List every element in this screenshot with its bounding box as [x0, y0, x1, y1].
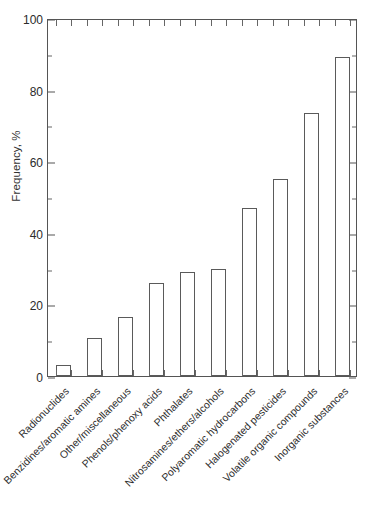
bar: [149, 283, 165, 376]
x-axis-tick: [149, 370, 150, 376]
figure-bar-chart: Frequency, % 020406080100 RadionuclidesB…: [0, 0, 373, 525]
y-axis-tick-minor: [48, 342, 52, 343]
y-axis-tick-label: 0: [36, 372, 43, 384]
y-axis-tick-label: 80: [30, 86, 43, 98]
y-axis-title: Frequency, %: [10, 106, 22, 226]
bar: [273, 179, 289, 376]
x-axis-tick-top: [71, 20, 72, 26]
bar: [242, 208, 258, 376]
y-axis-tick-major: [48, 91, 55, 92]
x-axis-tick: [350, 370, 351, 376]
x-axis-tick: [71, 370, 72, 376]
x-axis-tick: [273, 370, 274, 376]
x-axis-tick-top: [149, 20, 150, 26]
x-axis-tick: [335, 370, 336, 376]
bar: [87, 338, 103, 376]
x-axis-tick-top: [273, 20, 274, 26]
x-axis-tick-top: [102, 20, 103, 26]
y-axis-tick-minor-right: [352, 55, 356, 56]
y-axis-tick-minor-right: [352, 199, 356, 200]
y-axis-tick-major: [48, 163, 55, 164]
y-axis-tick-label: 60: [30, 157, 43, 169]
x-axis-tick: [304, 370, 305, 376]
x-axis-tick: [195, 370, 196, 376]
x-axis-tick: [180, 370, 181, 376]
y-axis-tick-major: [48, 234, 55, 235]
figure-caption: [10, 512, 365, 524]
bar: [335, 57, 351, 376]
y-axis-tick-minor-right: [352, 342, 356, 343]
y-axis-tick-minor-right: [352, 127, 356, 128]
x-axis-tick-top: [56, 20, 57, 26]
plot-area: 020406080100: [47, 19, 357, 377]
x-axis-tick-top: [211, 20, 212, 26]
x-axis-tick-top: [195, 20, 196, 26]
x-axis-tick-top: [226, 20, 227, 26]
x-axis-tick: [133, 370, 134, 376]
y-axis-tick-minor: [48, 127, 52, 128]
y-axis-tick-minor-right: [352, 270, 356, 271]
x-axis-tick: [257, 370, 258, 376]
bar: [211, 269, 227, 376]
x-axis-tick: [102, 370, 103, 376]
bar: [304, 113, 320, 376]
y-axis-tick-major: [48, 306, 55, 307]
x-axis-tick-top: [319, 20, 320, 26]
x-axis-tick: [164, 370, 165, 376]
x-axis-tick: [56, 370, 57, 376]
y-axis-tick-label: 100: [23, 14, 43, 26]
x-axis-tick: [118, 370, 119, 376]
y-axis-tick-major-right: [349, 378, 356, 379]
x-axis-tick-top: [242, 20, 243, 26]
x-axis-tick-top: [133, 20, 134, 26]
y-axis-tick-minor: [48, 199, 52, 200]
bar: [180, 272, 196, 376]
y-axis-tick-label: 20: [30, 300, 43, 312]
x-axis-tick: [319, 370, 320, 376]
x-axis-tick-top: [335, 20, 336, 26]
y-axis-tick-minor: [48, 270, 52, 271]
x-axis-tick-top: [180, 20, 181, 26]
x-axis-tick-top: [87, 20, 88, 26]
x-axis-tick: [242, 370, 243, 376]
y-axis-tick-label: 40: [30, 229, 43, 241]
bar: [118, 317, 134, 376]
y-axis-tick-major: [48, 20, 55, 21]
x-axis-tick: [87, 370, 88, 376]
y-axis-tick-minor: [48, 55, 52, 56]
x-axis-tick-top: [257, 20, 258, 26]
x-axis-tick-top: [288, 20, 289, 26]
x-axis-tick: [211, 370, 212, 376]
y-axis-tick-major: [48, 378, 55, 379]
x-axis-tick: [226, 370, 227, 376]
x-axis-tick-top: [350, 20, 351, 26]
x-axis-tick-top: [304, 20, 305, 26]
x-axis-tick-top: [164, 20, 165, 26]
bar: [56, 365, 72, 376]
x-axis-tick-top: [118, 20, 119, 26]
x-axis-tick: [288, 370, 289, 376]
